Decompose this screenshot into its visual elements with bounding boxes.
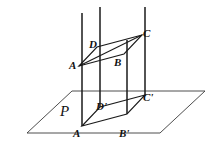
- lower-parallelogram-a-b-c-d-prime: [82, 95, 145, 126]
- geometry-figure: P A B C D A B' C' D': [0, 0, 214, 149]
- geometry-canvas: [0, 0, 214, 149]
- plane-label-P: P: [60, 104, 69, 119]
- vertex-label-A-prime: A: [73, 128, 80, 139]
- vertex-label-D-prime: D': [96, 101, 107, 112]
- vertex-label-A: A: [69, 60, 76, 71]
- vertex-label-B-prime: B': [119, 128, 129, 139]
- vertex-label-B: B: [114, 57, 121, 68]
- plane-p-outline: [27, 91, 205, 133]
- vertex-label-D: D: [89, 39, 97, 50]
- vertex-label-C-prime: C': [143, 92, 153, 103]
- vertex-label-C: C: [143, 28, 150, 39]
